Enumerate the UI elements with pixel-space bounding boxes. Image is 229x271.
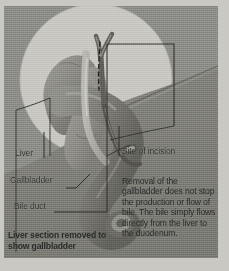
note-gallbladder-removal: Removal of the gallbladder does not stop… — [122, 176, 218, 238]
label-liver: Liver — [15, 148, 33, 158]
label-gallbladder: Gallbladder — [10, 175, 52, 185]
label-bile-duct: Bile duct — [14, 201, 46, 211]
label-site-of-incision: Site of incision — [122, 146, 182, 157]
figure-page: Liver Gallbladder Bile duct Site of inci… — [0, 0, 229, 271]
caption-liver-section-removed: Liver section removed to show gallbladde… — [8, 230, 124, 251]
